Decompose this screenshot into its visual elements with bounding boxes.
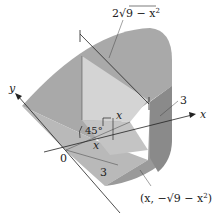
point-label: (x, −√9 − x2) [140,192,212,205]
solid-figure: y x 0 2√9 − x2 x 45° x 3 3 (x, −√9 − x2) [0,0,215,215]
figure-svg: y x 0 2√9 − x2 x 45° x 3 3 (x, −√9 − x2) [0,0,215,215]
y-axis-label: y [8,82,16,95]
chord-length-label: 2√9 − x2 [112,7,160,20]
x-axis-arrow-icon [189,112,196,118]
origin-label: 0 [60,152,67,165]
height-x-label: x [116,109,123,122]
base-x-label: x [93,139,100,152]
angle-label: 45° [85,125,103,136]
radius-right-label: 3 [180,94,187,107]
radius-bottom-label: 3 [100,166,107,179]
x-axis-label: x [200,108,207,121]
